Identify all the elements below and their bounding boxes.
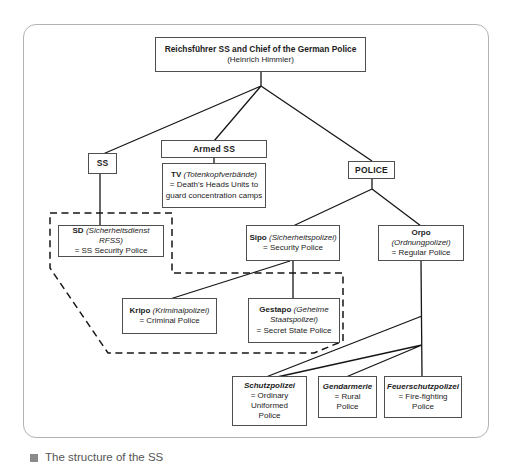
- node-police-label: POLICE: [355, 165, 388, 176]
- node-ss-label: SS: [97, 158, 109, 169]
- node-gendarmerie-line2: = Rural: [334, 392, 360, 402]
- node-feuerschutzpolizei-line3: Police: [412, 402, 434, 412]
- sipo-connectors: [170, 261, 293, 299]
- node-sd: SD (Sicherheitsdienst RFSS) = SS Securit…: [58, 225, 164, 257]
- police-connectors: [293, 179, 421, 226]
- node-sd-abbr: SD: [73, 226, 84, 235]
- node-himmler-title: Reichsführer SS and Chief of the German …: [165, 44, 357, 55]
- node-sd-line2: = SS Security Police: [75, 246, 148, 256]
- caption-bullet-icon: [30, 454, 38, 462]
- node-kripo: Kripo (Kriminalpolizei) = Criminal Polic…: [122, 298, 217, 334]
- node-ss: SS: [88, 153, 117, 174]
- node-schutzpolizei-line2: = Ordinary: [251, 391, 289, 401]
- node-himmler-subtitle: (Heinrich Himmler): [227, 55, 294, 65]
- node-gestapo-line2: = Secret State Police: [257, 326, 332, 336]
- node-schutzpolizei-name: Schutzpolizei: [244, 381, 295, 391]
- node-gendarmerie-line3: Police: [337, 402, 359, 412]
- node-feuerschutzpolizei: Feuerschutzpolizei = Fire-fighting Polic…: [384, 376, 462, 418]
- node-schutzpolizei-line4: Police: [259, 411, 281, 421]
- node-gestapo: Gestapo (Geheime Staatspolizei) = Secret…: [248, 298, 340, 343]
- node-gendarmerie-name: Gendarmerie: [323, 382, 372, 392]
- node-schutzpolizei-line3: Uniformed: [251, 401, 288, 411]
- node-orpo-abbr: Orpo: [411, 228, 430, 237]
- node-sipo-line2: = Security Police: [263, 243, 323, 253]
- node-tv: TV (Totenkopfverbände) = Death's Heads U…: [162, 163, 266, 208]
- node-orpo: Orpo (Ordnungpolizei) = Regular Police: [378, 225, 464, 261]
- node-gestapo-abbr: Gestapo: [259, 305, 291, 314]
- node-kripo-german: (Kriminalpolizei): [153, 306, 210, 315]
- node-gendarmerie: Gendarmerie = Rural Police: [318, 376, 377, 418]
- node-schutzpolizei: Schutzpolizei = Ordinary Uniformed Polic…: [232, 376, 307, 426]
- node-himmler: Reichsführer SS and Chief of the German …: [155, 37, 366, 72]
- node-kripo-abbr: Kripo: [129, 306, 150, 315]
- node-feuerschutzpolizei-name: Feuerschutzpolizei: [387, 382, 459, 392]
- node-orpo-german: (Ordnungpolizei): [391, 238, 450, 247]
- node-sd-german: (Sicherheitsdienst RFSS): [86, 226, 150, 245]
- node-tv-line3: guard concentration camps: [166, 191, 263, 201]
- caption-text: The structure of the SS: [45, 451, 163, 463]
- node-sipo-abbr: Sipo: [249, 233, 266, 242]
- node-orpo-line2: = Regular Police: [392, 248, 451, 258]
- node-armed-ss-label: Armed SS: [193, 144, 235, 155]
- node-police: POLICE: [348, 161, 395, 179]
- node-tv-abbr: TV: [171, 170, 181, 179]
- figure-caption: The structure of the SS: [30, 451, 163, 463]
- node-sipo: Sipo (Sicherheitspolizei) = Security Pol…: [246, 225, 340, 261]
- node-feuerschutzpolizei-line2: = Fire-fighting: [398, 392, 447, 402]
- node-kripo-line2: = Criminal Police: [139, 316, 199, 326]
- node-sipo-german: (Sicherheitspolizei): [269, 233, 337, 242]
- node-tv-line2: = Death's Heads Units to: [170, 180, 258, 190]
- node-armed-ss: Armed SS: [161, 140, 267, 158]
- node-tv-german: (Totenkopfverbände): [183, 170, 257, 179]
